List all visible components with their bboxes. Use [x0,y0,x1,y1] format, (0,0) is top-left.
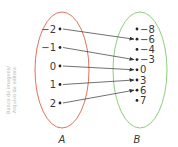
set-b-element-dot [136,79,139,82]
set-a-element-dot [59,28,62,31]
set-a-label: A [58,134,66,145]
set-b-element-dot [136,58,139,61]
mapping-arrows [63,29,134,103]
set-b-element-label: 7 [140,95,146,106]
mapping-arrow [63,29,134,39]
mapping-arrow [63,66,134,70]
set-b-element-dot [136,68,139,71]
set-b-label: B [134,134,141,145]
set-b-element-dot [136,38,139,41]
mapping-arrow [63,90,134,103]
image-credit: Banco de imagens/ Arquivo da editora [2,60,22,120]
set-a-element-label: 2 [50,98,56,109]
mapping-arrow [63,80,134,85]
set-b-element-dot [136,48,139,51]
function-diagram: −2−1012 −8−6−4−30367 A B [0,0,178,147]
set-a-element-dot [59,46,62,49]
credit-line-2: Arquivo da editora [11,60,17,120]
set-a-elements: −2−1012 [41,24,61,109]
set-a-element-dot [59,102,62,105]
set-b-elements: −8−6−4−30367 [136,24,155,106]
set-b-element-dot [136,28,139,31]
set-a-element-label: 1 [50,79,56,90]
set-a-element-label: 0 [50,61,56,72]
set-a-element-label: −2 [41,24,56,35]
mapping-arrow [63,48,134,60]
set-b-element-dot [136,99,139,102]
set-a-element-label: −1 [41,42,56,53]
set-a-element-dot [59,83,62,86]
set-b-element-dot [136,89,139,92]
set-a-element-dot [59,65,62,68]
